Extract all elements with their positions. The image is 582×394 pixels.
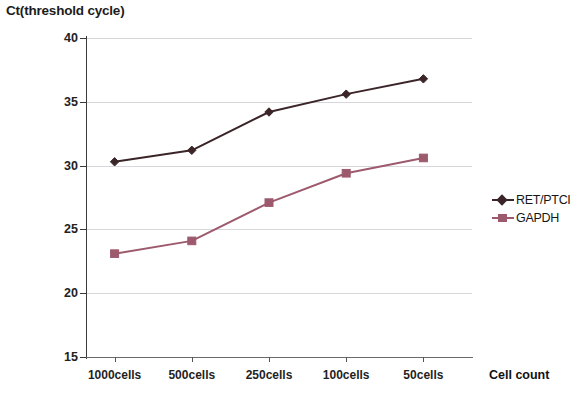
y-tick-label: 30	[64, 159, 78, 173]
x-tick-mark	[192, 357, 193, 362]
chart-container: Ct(threshold cycle) 152025303540 1000cel…	[0, 0, 582, 394]
x-tick-mark	[423, 357, 424, 362]
legend-marker	[498, 214, 507, 222]
gridline	[86, 102, 472, 103]
gridline	[86, 293, 472, 294]
gridline	[86, 166, 472, 167]
y-axis-line	[86, 36, 87, 359]
y-tick-label: 15	[64, 350, 78, 364]
y-tick-mark	[80, 38, 86, 39]
y-tick-mark	[80, 293, 86, 294]
legend-marker	[496, 194, 507, 205]
y-tick-label: 40	[64, 31, 78, 45]
x-tick-label: 50cells	[403, 368, 443, 382]
y-tick-mark	[80, 357, 86, 358]
chart-legend: RET/PTCIGAPDH	[492, 191, 582, 227]
y-tick-mark	[80, 166, 86, 167]
gridline	[86, 229, 472, 230]
legend-item-1[interactable]: RET/PTCI	[492, 191, 582, 209]
legend-label: GAPDH	[516, 211, 559, 225]
x-axis-title: Cell count	[489, 368, 549, 382]
diamond-marker-icon	[492, 193, 514, 207]
x-tick-label: 250cells	[246, 368, 293, 382]
y-tick-label: 20	[64, 286, 78, 300]
y-tick-mark	[80, 102, 86, 103]
legend-label: RET/PTCI	[516, 193, 571, 207]
x-axis-line	[86, 357, 473, 358]
x-tick-label: 1000cells	[88, 368, 141, 382]
square-marker-icon	[492, 211, 514, 225]
x-tick-label: 100cells	[323, 368, 370, 382]
x-tick-mark	[346, 357, 347, 362]
y-tick-mark	[80, 229, 86, 230]
y-tick-label: 35	[64, 95, 78, 109]
gridline	[86, 38, 472, 39]
legend-item-2[interactable]: GAPDH	[492, 209, 582, 227]
x-tick-label: 500cells	[168, 368, 215, 382]
x-tick-mark	[269, 357, 270, 362]
y-tick-label: 25	[64, 222, 78, 236]
x-tick-mark	[115, 357, 116, 362]
plot-area	[86, 38, 472, 357]
chart-title: Ct(threshold cycle)	[6, 3, 124, 18]
